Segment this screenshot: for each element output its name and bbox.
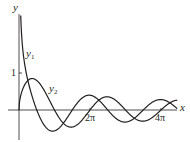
series-label-y1-sub: 1 xyxy=(31,53,35,61)
series-label-y2: y2 xyxy=(49,83,57,96)
x-tick-label-4pi: 4π xyxy=(155,113,165,123)
series-label-y1: y1 xyxy=(26,48,34,61)
y-tick-label-1: 1 xyxy=(11,68,16,78)
curve-y2 xyxy=(19,79,177,128)
x-axis-label: x xyxy=(180,102,185,113)
curve-y1 xyxy=(21,16,178,132)
x-tick-label-2pi: 2π xyxy=(85,113,95,123)
series-label-y2-sub: 2 xyxy=(54,88,58,96)
y-axis-label: y xyxy=(13,2,18,13)
